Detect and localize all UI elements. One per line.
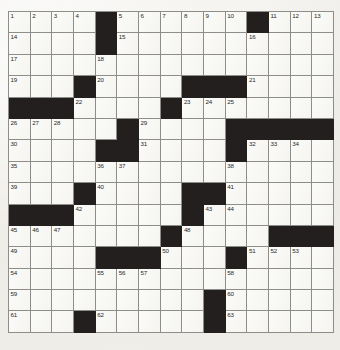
letter-cell[interactable]: 19 bbox=[9, 76, 31, 97]
letter-cell[interactable] bbox=[312, 55, 334, 76]
letter-cell[interactable] bbox=[269, 76, 291, 97]
letter-cell[interactable] bbox=[204, 55, 226, 76]
letter-cell[interactable]: 35 bbox=[9, 162, 31, 183]
letter-cell[interactable] bbox=[52, 269, 74, 290]
letter-cell[interactable] bbox=[31, 311, 53, 332]
letter-cell[interactable] bbox=[31, 290, 53, 311]
letter-cell[interactable]: 53 bbox=[291, 247, 313, 268]
letter-cell[interactable] bbox=[52, 55, 74, 76]
letter-cell[interactable] bbox=[161, 33, 183, 54]
letter-cell[interactable]: 7 bbox=[161, 12, 183, 33]
letter-cell[interactable]: 55 bbox=[96, 269, 118, 290]
letter-cell[interactable] bbox=[269, 55, 291, 76]
letter-cell[interactable]: 37 bbox=[117, 162, 139, 183]
letter-cell[interactable]: 61 bbox=[9, 311, 31, 332]
letter-cell[interactable] bbox=[74, 119, 96, 140]
letter-cell[interactable] bbox=[312, 98, 334, 119]
letter-cell[interactable] bbox=[74, 247, 96, 268]
letter-cell[interactable]: 49 bbox=[9, 247, 31, 268]
letter-cell[interactable] bbox=[269, 162, 291, 183]
letter-cell[interactable] bbox=[31, 162, 53, 183]
letter-cell[interactable] bbox=[139, 311, 161, 332]
letter-cell[interactable] bbox=[291, 162, 313, 183]
letter-cell[interactable] bbox=[182, 311, 204, 332]
letter-cell[interactable] bbox=[74, 55, 96, 76]
letter-cell[interactable] bbox=[96, 226, 118, 247]
letter-cell[interactable] bbox=[74, 226, 96, 247]
letter-cell[interactable]: 46 bbox=[31, 226, 53, 247]
letter-cell[interactable]: 14 bbox=[9, 33, 31, 54]
letter-cell[interactable] bbox=[247, 98, 269, 119]
letter-cell[interactable] bbox=[74, 290, 96, 311]
letter-cell[interactable] bbox=[247, 290, 269, 311]
letter-cell[interactable] bbox=[182, 162, 204, 183]
letter-cell[interactable]: 2 bbox=[31, 12, 53, 33]
letter-cell[interactable] bbox=[312, 183, 334, 204]
letter-cell[interactable] bbox=[247, 226, 269, 247]
letter-cell[interactable]: 34 bbox=[291, 140, 313, 161]
letter-cell[interactable] bbox=[204, 247, 226, 268]
letter-cell[interactable] bbox=[312, 290, 334, 311]
letter-cell[interactable] bbox=[117, 183, 139, 204]
letter-cell[interactable]: 16 bbox=[247, 33, 269, 54]
letter-cell[interactable] bbox=[247, 183, 269, 204]
letter-cell[interactable] bbox=[247, 311, 269, 332]
letter-cell[interactable] bbox=[139, 76, 161, 97]
letter-cell[interactable] bbox=[31, 76, 53, 97]
letter-cell[interactable]: 47 bbox=[52, 226, 74, 247]
letter-cell[interactable] bbox=[52, 290, 74, 311]
letter-cell[interactable]: 5 bbox=[117, 12, 139, 33]
letter-cell[interactable] bbox=[204, 162, 226, 183]
letter-cell[interactable]: 39 bbox=[9, 183, 31, 204]
letter-cell[interactable] bbox=[291, 76, 313, 97]
letter-cell[interactable] bbox=[247, 269, 269, 290]
letter-cell[interactable] bbox=[204, 33, 226, 54]
letter-cell[interactable] bbox=[182, 247, 204, 268]
letter-cell[interactable]: 32 bbox=[247, 140, 269, 161]
letter-cell[interactable] bbox=[96, 98, 118, 119]
letter-cell[interactable] bbox=[161, 290, 183, 311]
letter-cell[interactable] bbox=[117, 55, 139, 76]
letter-cell[interactable]: 29 bbox=[139, 119, 161, 140]
letter-cell[interactable]: 12 bbox=[291, 12, 313, 33]
letter-cell[interactable] bbox=[52, 311, 74, 332]
letter-cell[interactable] bbox=[226, 33, 248, 54]
crossword-grid[interactable]: 1234567891011121314151617181920212223242… bbox=[8, 11, 334, 333]
letter-cell[interactable] bbox=[52, 76, 74, 97]
letter-cell[interactable] bbox=[182, 290, 204, 311]
letter-cell[interactable]: 42 bbox=[74, 205, 96, 226]
letter-cell[interactable] bbox=[312, 269, 334, 290]
letter-cell[interactable] bbox=[269, 33, 291, 54]
letter-cell[interactable] bbox=[161, 55, 183, 76]
letter-cell[interactable] bbox=[291, 269, 313, 290]
letter-cell[interactable] bbox=[139, 226, 161, 247]
letter-cell[interactable] bbox=[74, 269, 96, 290]
letter-cell[interactable] bbox=[204, 226, 226, 247]
letter-cell[interactable] bbox=[117, 76, 139, 97]
letter-cell[interactable]: 54 bbox=[9, 269, 31, 290]
letter-cell[interactable]: 48 bbox=[182, 226, 204, 247]
letter-cell[interactable] bbox=[182, 119, 204, 140]
letter-cell[interactable]: 33 bbox=[269, 140, 291, 161]
letter-cell[interactable] bbox=[117, 98, 139, 119]
letter-cell[interactable] bbox=[291, 205, 313, 226]
letter-cell[interactable] bbox=[269, 290, 291, 311]
letter-cell[interactable] bbox=[226, 226, 248, 247]
letter-cell[interactable] bbox=[182, 33, 204, 54]
letter-cell[interactable]: 24 bbox=[204, 98, 226, 119]
letter-cell[interactable]: 56 bbox=[117, 269, 139, 290]
letter-cell[interactable] bbox=[291, 311, 313, 332]
letter-cell[interactable] bbox=[117, 311, 139, 332]
letter-cell[interactable]: 17 bbox=[9, 55, 31, 76]
letter-cell[interactable] bbox=[31, 269, 53, 290]
letter-cell[interactable] bbox=[31, 33, 53, 54]
letter-cell[interactable] bbox=[269, 311, 291, 332]
letter-cell[interactable]: 23 bbox=[182, 98, 204, 119]
letter-cell[interactable] bbox=[312, 205, 334, 226]
letter-cell[interactable] bbox=[247, 55, 269, 76]
letter-cell[interactable] bbox=[182, 55, 204, 76]
letter-cell[interactable]: 38 bbox=[226, 162, 248, 183]
letter-cell[interactable]: 27 bbox=[31, 119, 53, 140]
letter-cell[interactable]: 63 bbox=[226, 311, 248, 332]
letter-cell[interactable]: 58 bbox=[226, 269, 248, 290]
